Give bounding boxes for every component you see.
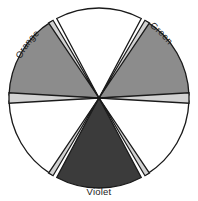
color-wheel-diagram: Orange Green Violet (0, 0, 198, 201)
color-wheel-graphic: Orange Green (0, 0, 198, 201)
label-violet: Violet (0, 186, 198, 198)
